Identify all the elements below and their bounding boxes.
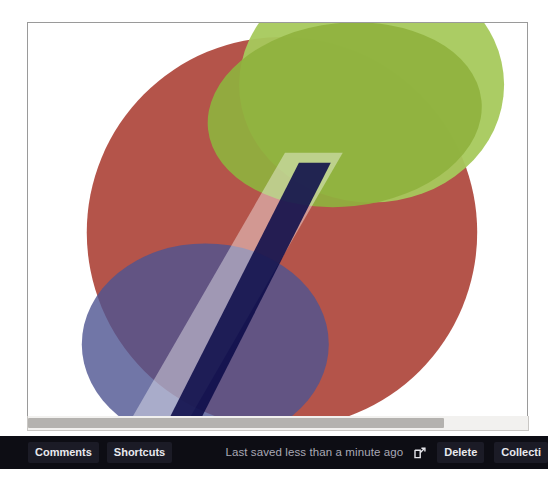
shortcuts-button[interactable]: Shortcuts bbox=[107, 442, 172, 463]
canvas-stage[interactable] bbox=[28, 23, 527, 416]
drawing-canvas[interactable] bbox=[27, 22, 528, 416]
collections-button[interactable]: Collecti bbox=[494, 442, 548, 463]
app-window: Comments Shortcuts Last saved less than … bbox=[0, 0, 556, 488]
external-link-icon[interactable] bbox=[413, 446, 427, 460]
toolbar-left-group: Comments Shortcuts bbox=[0, 442, 172, 463]
last-saved-status: Last saved less than a minute ago bbox=[225, 447, 403, 459]
delete-button[interactable]: Delete bbox=[437, 442, 484, 463]
toolbar-right-group: Last saved less than a minute ago Delete… bbox=[225, 442, 548, 463]
horizontal-scrollbar-thumb[interactable] bbox=[28, 418, 444, 428]
comments-button[interactable]: Comments bbox=[28, 442, 99, 463]
bottom-toolbar: Comments Shortcuts Last saved less than … bbox=[0, 436, 548, 469]
canvas-artwork bbox=[28, 23, 527, 416]
horizontal-scrollbar[interactable] bbox=[27, 416, 529, 431]
